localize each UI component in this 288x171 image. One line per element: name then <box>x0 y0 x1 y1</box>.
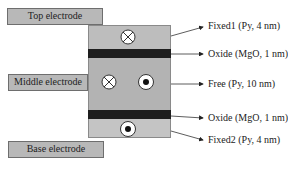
label-fixed2: Fixed2 (Py, 4 nm) <box>208 134 280 145</box>
arrow-fixed1 <box>171 27 203 36</box>
out-of-page-icon <box>139 75 154 90</box>
arrow-oxide-bottom <box>171 116 203 118</box>
arrow-fixed2 <box>171 131 203 140</box>
label-oxide-top: Oxide (MgO, 1 nm) <box>208 48 288 59</box>
label-fixed1: Fixed1 (Py, 4 nm) <box>208 20 280 31</box>
label-free: Free (Py, 10 nm) <box>208 78 275 89</box>
into-page-icon <box>102 75 116 89</box>
out-of-page-icon <box>121 122 136 137</box>
into-page-icon <box>121 30 135 44</box>
label-oxide-bottom: Oxide (MgO, 1 nm) <box>208 112 288 123</box>
